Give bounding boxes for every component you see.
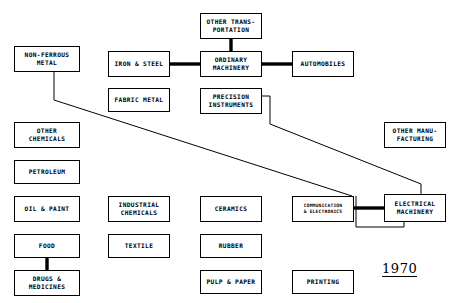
node-pulp-and-paper[interactable]: PULP & PAPER xyxy=(200,270,262,294)
node-automobiles[interactable]: AUTOMOBILES xyxy=(292,51,354,77)
node-label: FOOD xyxy=(39,242,55,250)
node-other-chemicals[interactable]: OTHERCHEMICALS xyxy=(14,122,80,148)
node-oil-and-paint[interactable]: OIL & PAINT xyxy=(14,196,80,222)
node-industrial-chemicals[interactable]: INDUSTRIALCHEMICALS xyxy=(108,196,170,222)
node-non-ferrous-metal[interactable]: NON-FERROUSMETAL xyxy=(14,46,80,72)
node-drugs-and-medicines[interactable]: DRUGS &MEDICINES xyxy=(14,270,80,296)
node-rubber[interactable]: RUBBER xyxy=(200,234,262,258)
node-label: MEDICINES xyxy=(29,283,66,291)
node-petroleum[interactable]: PETROLEUM xyxy=(14,160,80,184)
node-label: ORDINARY xyxy=(215,56,248,64)
node-communication-electronics[interactable]: COMMUNICATION& ELECTRONICS xyxy=(292,196,354,222)
node-label: OTHER MANU- xyxy=(393,127,438,135)
node-label: RUBBER xyxy=(219,242,243,250)
node-label: MACHINERY xyxy=(213,64,250,72)
node-label: METAL xyxy=(37,59,57,67)
node-label: FABRIC METAL xyxy=(115,96,164,104)
node-ceramics[interactable]: CERAMICS xyxy=(200,196,262,222)
diagram-canvas: NON-FERROUSMETALOTHER TRANS-PORTATIONIRO… xyxy=(0,0,462,303)
node-label: DRUGS & xyxy=(33,275,62,283)
node-label: NON-FERROUS xyxy=(25,51,70,59)
node-label: FACTURING xyxy=(397,135,434,143)
node-label: PRINTING xyxy=(307,278,340,286)
node-label: OIL & PAINT xyxy=(25,205,70,213)
node-food[interactable]: FOOD xyxy=(14,234,80,258)
node-other-transportation[interactable]: OTHER TRANS-PORTATION xyxy=(200,13,262,39)
node-label: PETROLEUM xyxy=(29,168,66,176)
node-iron-and-steel[interactable]: IRON & STEEL xyxy=(108,51,170,77)
node-label: IRON & STEEL xyxy=(115,60,164,68)
node-label: PRECISION xyxy=(213,93,250,101)
node-label: TEXTILE xyxy=(125,242,154,250)
node-precision-instruments[interactable]: PRECISIONINSTRUMENTS xyxy=(200,88,262,114)
node-label: INSTRUMENTS xyxy=(209,101,254,109)
node-label: PULP & PAPER xyxy=(207,278,256,286)
node-label: ELECTRICAL xyxy=(395,200,436,208)
node-textile[interactable]: TEXTILE xyxy=(108,234,170,258)
node-label: CHEMICALS xyxy=(29,135,66,143)
node-label: & ELECTRONICS xyxy=(304,209,343,215)
node-printing[interactable]: PRINTING xyxy=(292,270,354,294)
node-label: AUTOMOBILES xyxy=(301,60,346,68)
node-ordinary-machinery[interactable]: ORDINARYMACHINERY xyxy=(200,51,262,77)
node-fabric-metal[interactable]: FABRIC METAL xyxy=(108,88,170,112)
node-label: INDUSTRIAL xyxy=(119,201,160,209)
node-electrical-machinery[interactable]: ELECTRICALMACHINERY xyxy=(384,194,446,222)
node-label: PORTATION xyxy=(213,26,250,34)
node-other-manufacturing[interactable]: OTHER MANU-FACTURING xyxy=(384,122,446,148)
node-label: OTHER xyxy=(37,127,57,135)
year-label: 1970 xyxy=(382,262,417,277)
node-label: CERAMICS xyxy=(215,205,248,213)
node-label: OTHER TRANS- xyxy=(207,18,256,26)
node-label: MACHINERY xyxy=(397,208,434,216)
node-label: CHEMICALS xyxy=(121,209,158,217)
